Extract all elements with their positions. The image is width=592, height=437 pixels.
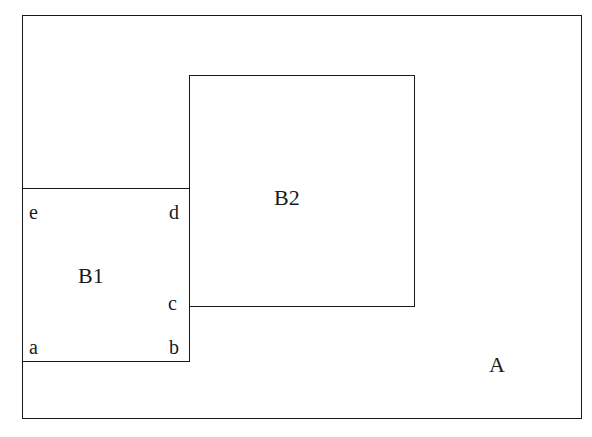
region-a-label: A: [489, 354, 505, 376]
region-b2-box: [189, 75, 415, 307]
region-b1-label: B1: [78, 265, 104, 287]
diagram-canvas: A B2 B1 e d c a b: [0, 0, 592, 437]
region-b1-box: [22, 188, 190, 362]
corner-c-label: c: [168, 293, 177, 313]
corner-d-label: d: [169, 202, 179, 222]
corner-e-label: e: [29, 202, 38, 222]
region-b2-label: B2: [274, 187, 300, 209]
corner-b-label: b: [169, 337, 179, 357]
corner-a-label: a: [29, 337, 38, 357]
